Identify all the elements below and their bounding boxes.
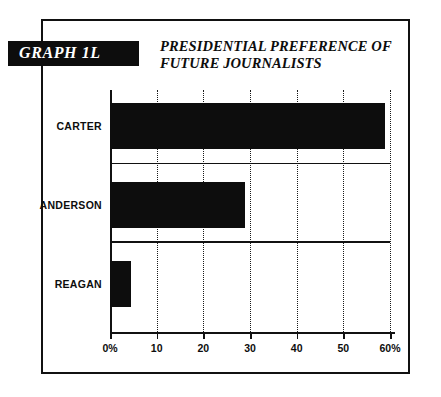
gridline-60 — [390, 90, 391, 334]
x-axis-line — [110, 332, 395, 334]
x-tick-mark-20 — [203, 332, 205, 339]
x-tick-mark-40 — [297, 332, 299, 339]
x-tick-label-40: 40 — [275, 342, 319, 354]
graph-number-banner: GRAPH 1L — [8, 41, 139, 66]
plot-area — [110, 94, 390, 330]
x-tick-mark-50 — [343, 332, 345, 339]
bar-anderson — [110, 182, 245, 228]
bar-reagan — [110, 261, 131, 307]
x-tick-label-10: 10 — [135, 342, 179, 354]
x-tick-mark-30 — [250, 332, 252, 339]
x-tick-mark-0 — [110, 332, 112, 339]
category-label-reagan: REAGAN — [2, 278, 102, 290]
x-tick-label-50: 50 — [321, 342, 365, 354]
category-label-anderson: ANDERSON — [2, 199, 102, 211]
x-tick-label-60: 60% — [368, 342, 412, 354]
band-separator-1 — [110, 241, 390, 243]
graph-number-label: GRAPH 1L — [19, 44, 101, 62]
category-label-carter: CARTER — [2, 120, 102, 132]
chart-title: PRESIDENTIAL PREFERENCE OF FUTURE JOURNA… — [160, 38, 400, 71]
x-tick-label-30: 30 — [228, 342, 272, 354]
x-tick-label-20: 20 — [181, 342, 225, 354]
bar-carter — [110, 103, 385, 149]
band-separator-0 — [110, 163, 390, 165]
x-tick-mark-60 — [390, 332, 392, 339]
x-tick-mark-10 — [157, 332, 159, 339]
x-tick-label-0: 0% — [88, 342, 132, 354]
